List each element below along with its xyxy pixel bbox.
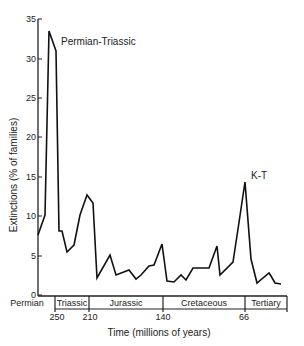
y-tick-label: 10 bbox=[26, 211, 36, 221]
extinction-chart: 0 5 10 15 20 25 30 35 Extinctions (% of … bbox=[0, 0, 304, 346]
y-tick-label: 5 bbox=[31, 251, 36, 261]
period-label-cretaceous: Cretaceous bbox=[181, 298, 228, 308]
x-tick-label: 250 bbox=[49, 312, 64, 322]
period-label-triassic: Triassic bbox=[57, 298, 88, 308]
annotation-kt: K-T bbox=[251, 170, 267, 181]
x-axis-label: Time (millions of years) bbox=[108, 327, 211, 338]
period-label-permian: Permian bbox=[10, 298, 44, 308]
y-tick-label: 30 bbox=[26, 54, 36, 64]
y-tick-label: 35 bbox=[26, 14, 36, 24]
extinction-series-line bbox=[38, 31, 281, 284]
x-tick-label: 140 bbox=[155, 312, 170, 322]
x-tick-label: 210 bbox=[82, 312, 97, 322]
period-label-jurassic: Jurassic bbox=[109, 298, 143, 308]
y-tick-label: 15 bbox=[26, 172, 36, 182]
y-tick-label: 25 bbox=[26, 93, 36, 103]
y-tick-label: 20 bbox=[26, 132, 36, 142]
y-tick-labels: 0 5 10 15 20 25 30 35 bbox=[26, 14, 36, 300]
period-label-tertiary: Tertiary bbox=[251, 298, 281, 308]
y-axis-label: Extinctions (% of families) bbox=[8, 118, 19, 232]
x-tick-labels: 250 210 140 66 bbox=[49, 312, 249, 322]
x-tick-label: 66 bbox=[239, 312, 249, 322]
annotation-permian-triassic: Permian-Triassic bbox=[61, 36, 136, 47]
period-labels: Permian Triassic Jurassic Cretaceous Ter… bbox=[10, 298, 281, 308]
